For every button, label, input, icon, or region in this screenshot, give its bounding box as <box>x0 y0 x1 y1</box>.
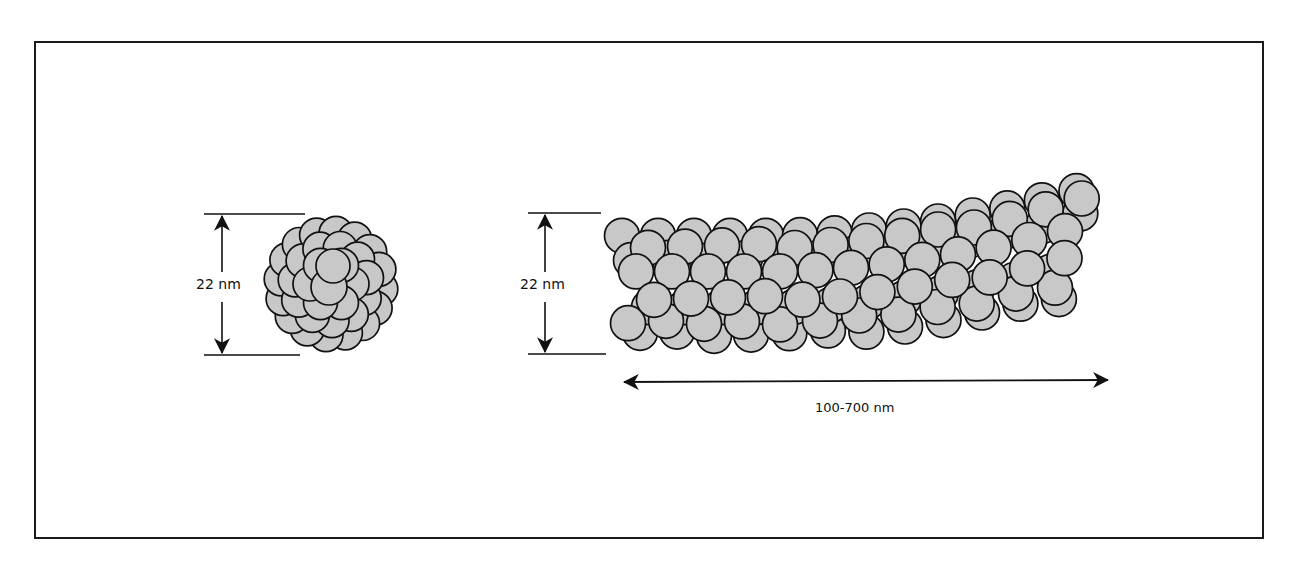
rod-length-label: 100-700 nm <box>815 398 894 417</box>
spherical-aggregate-icon <box>264 216 398 351</box>
sphere-diameter-label: 22 nm <box>196 274 241 294</box>
rod-aggregate-icon <box>605 174 1100 354</box>
rod-diameter-label: 22 nm <box>520 274 565 294</box>
length-double-arrow-icon <box>624 380 1108 382</box>
